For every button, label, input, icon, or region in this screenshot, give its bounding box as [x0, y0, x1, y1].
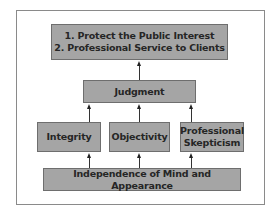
goal-professional-service: 2. Professional Service to Clients [54, 42, 224, 54]
connector-objectivity-to-judgment [139, 108, 140, 122]
independence-label: Independence of Mind and Appearance [44, 168, 240, 192]
skepticism-label-line1: Professional [180, 125, 244, 137]
independence-box: Independence of Mind and Appearance [43, 168, 241, 191]
professional-skepticism-box: Professional Skepticism [180, 122, 244, 152]
integrity-box: Integrity [37, 122, 101, 152]
arrow-up-icon [189, 153, 193, 158]
connector-judgment-to-goals [139, 65, 140, 80]
objectivity-box: Objectivity [109, 122, 170, 152]
integrity-label: Integrity [47, 131, 92, 143]
skepticism-label-line2: Skepticism [184, 137, 240, 149]
arrow-up-icon [137, 104, 141, 109]
connector-independence-to-objectivity [139, 157, 140, 168]
judgment-box: Judgment [83, 80, 196, 103]
arrow-up-icon [189, 104, 193, 109]
arrow-up-icon [87, 153, 91, 158]
connector-independence-to-integrity [89, 157, 90, 168]
objectivity-label: Objectivity [112, 131, 168, 143]
goals-box: 1. Protect the Public Interest 2. Profes… [51, 24, 228, 60]
connector-integrity-to-judgment [89, 108, 90, 122]
goal-protect-public-interest: 1. Protect the Public Interest [65, 30, 215, 42]
arrow-up-icon [87, 104, 91, 109]
arrow-up-icon [137, 61, 141, 66]
arrow-up-icon [137, 153, 141, 158]
judgment-label: Judgment [115, 86, 165, 98]
connector-independence-to-skepticism [191, 157, 192, 168]
connector-skepticism-to-judgment [191, 108, 192, 122]
